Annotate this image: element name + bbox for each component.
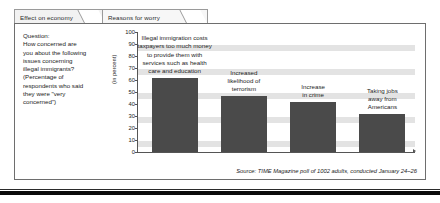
tab-reasons-for-worry[interactable]: Reasons for worry bbox=[102, 9, 208, 24]
question-line: illegal immigrants? bbox=[23, 65, 99, 73]
bar-4 bbox=[359, 114, 405, 152]
y-axis-tick-mark bbox=[135, 56, 138, 57]
question-block: Question: How concerned are you about th… bbox=[23, 32, 99, 107]
y-axis-tick-mark bbox=[135, 152, 138, 153]
question-line: concerned") bbox=[23, 98, 99, 106]
question-line: they were "very bbox=[23, 90, 99, 98]
bar-label-line: Americans bbox=[322, 103, 440, 111]
question-line: (Percentage of bbox=[23, 73, 99, 81]
bar-label-line: Increased bbox=[184, 69, 304, 77]
tab-reasons-for-worry-label: Reasons for worry bbox=[108, 14, 160, 21]
tab-strip-filler bbox=[204, 9, 426, 24]
bar-label-line: taxpayers too much money bbox=[115, 42, 235, 50]
bar-label-line: services such as health bbox=[115, 59, 235, 67]
tab-effect-on-economy[interactable]: Effect on economy bbox=[14, 9, 106, 24]
question-line: How concerned are bbox=[23, 40, 99, 48]
question-line: respondents who said bbox=[23, 82, 99, 90]
question-line: issues concerning bbox=[23, 57, 99, 65]
y-axis-tick-mark bbox=[135, 116, 138, 117]
source-note: Source: TIME Magazine poll of 1002 adult… bbox=[236, 168, 417, 174]
bar-label-line: Illegal immigration costs bbox=[115, 34, 235, 42]
bar-label-line: Taking jobs bbox=[322, 87, 440, 95]
x-axis-line bbox=[137, 152, 415, 153]
question-line: Question: bbox=[23, 32, 99, 40]
tab-strip: Effect on economy Reasons for worry bbox=[14, 9, 426, 24]
bar-series: Illegal immigration coststaxpayers too m… bbox=[138, 32, 415, 152]
bar-chart-plot-area: (in percent) 1009080706050403020100 Ille… bbox=[113, 32, 417, 166]
question-line: you about the following bbox=[23, 49, 99, 57]
y-axis-tick-mark bbox=[135, 140, 138, 141]
bar-label-line: away from bbox=[322, 95, 440, 103]
y-axis-tick-mark bbox=[135, 128, 138, 129]
y-axis-tick-mark bbox=[135, 92, 138, 93]
bar-2 bbox=[221, 96, 267, 152]
bar-label-line: to provide them with bbox=[115, 51, 235, 59]
y-axis-tick-mark bbox=[135, 80, 138, 81]
bar-label-4: Taking jobsaway fromAmericans bbox=[322, 87, 440, 112]
y-axis-tick-mark bbox=[135, 68, 138, 69]
footer-rule-thin bbox=[0, 189, 440, 190]
y-axis-tick-mark bbox=[135, 32, 138, 33]
y-axis-tick-mark bbox=[135, 44, 138, 45]
y-axis-tick-mark bbox=[135, 104, 138, 105]
tab-effect-on-economy-label: Effect on economy bbox=[20, 14, 73, 21]
footer-rule-thick bbox=[0, 191, 440, 195]
chart-panel: Question: How concerned are you about th… bbox=[14, 23, 426, 180]
